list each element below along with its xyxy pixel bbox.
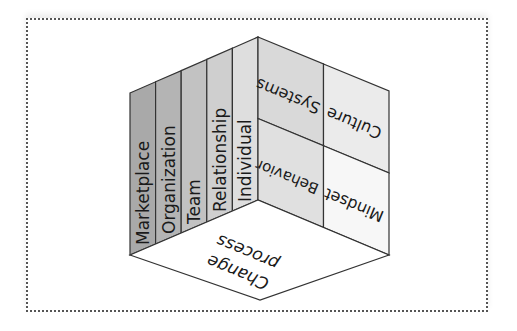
label-marketplace: Marketplace [133,141,153,245]
label-organization: Organization [159,125,179,234]
label-relationship: Relationship [210,108,230,212]
label-individual: Individual [235,119,255,202]
label-team: Team [184,179,204,225]
change-cube-diagram: Marketplace Organization Team Relationsh… [0,0,517,331]
